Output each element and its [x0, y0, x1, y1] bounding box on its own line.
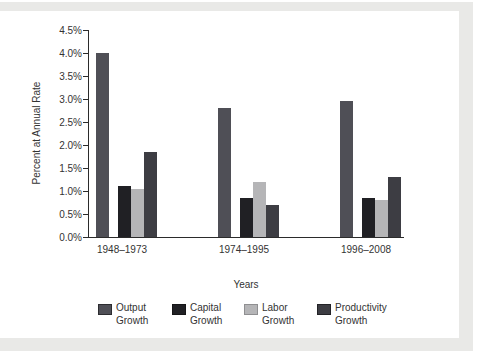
x-axis-line — [88, 237, 404, 238]
x-tick-label-1996-2008: 1996–2008 — [321, 244, 411, 255]
bar-labor-growth-1996-2008 — [375, 200, 388, 237]
bar-labor-growth-1974-1995 — [253, 182, 266, 237]
y-tick-label-0-5: 0.5% — [38, 209, 82, 220]
bar-capital-growth-1948-1973 — [118, 186, 131, 237]
y-tick-label-0-0: 0.0% — [38, 232, 82, 243]
y-axis-title: Percent at Annual Rate — [31, 63, 45, 203]
y-axis-line — [88, 30, 89, 238]
y-tick-mark-2-0 — [83, 145, 88, 146]
page-background-band-top — [0, 2, 462, 11]
x-axis-title: Years — [206, 279, 286, 290]
legend-label-capital-growth: Capital Growth — [190, 302, 222, 327]
x-tick-label-1974-1995: 1974–1995 — [199, 244, 289, 255]
x-tick-label-1948-1973: 1948–1973 — [77, 244, 167, 255]
legend-label-output-growth: Output Growth — [116, 302, 148, 327]
legend-swatch-output-growth — [98, 304, 112, 315]
y-tick-mark-0-5 — [83, 214, 88, 215]
figure-page: Percent at Annual Rate 0.0%0.5%1.0%1.5%2… — [0, 0, 477, 351]
legend-label-labor-growth: Labor Growth — [262, 302, 294, 327]
legend-swatch-productivity-growth — [317, 304, 331, 315]
page-background-band-bottom — [0, 338, 473, 351]
y-tick-label-1-0: 1.0% — [38, 186, 82, 197]
legend-label-productivity-growth: Productivity Growth — [335, 302, 387, 327]
bar-capital-growth-1974-1995 — [240, 198, 253, 237]
y-tick-label-4-0: 4.0% — [38, 48, 82, 59]
y-tick-label-2-0: 2.0% — [38, 140, 82, 151]
y-tick-mark-3-5 — [83, 76, 88, 77]
y-tick-mark-4-5 — [83, 30, 88, 31]
bar-labor-growth-1948-1973 — [131, 189, 144, 237]
y-tick-label-3-5: 3.5% — [38, 71, 82, 82]
bar-output-growth-1948-1973 — [96, 53, 109, 237]
bar-productivity-growth-1996-2008 — [388, 177, 401, 237]
y-tick-label-1-5: 1.5% — [38, 163, 82, 174]
y-tick-label-3-0: 3.0% — [38, 94, 82, 105]
y-tick-mark-4-0 — [83, 53, 88, 54]
bar-productivity-growth-1974-1995 — [266, 205, 279, 237]
y-tick-mark-1-5 — [83, 168, 88, 169]
page-background-band-right — [459, 2, 473, 344]
y-tick-label-4-5: 4.5% — [38, 25, 82, 36]
bar-output-growth-1974-1995 — [218, 108, 231, 237]
legend-swatch-capital-growth — [172, 304, 186, 315]
bar-productivity-growth-1948-1973 — [144, 152, 157, 237]
legend-swatch-labor-growth — [244, 304, 258, 315]
y-tick-mark-1-0 — [83, 191, 88, 192]
y-tick-mark-3-0 — [83, 99, 88, 100]
y-tick-mark-0-0 — [83, 237, 88, 238]
y-tick-mark-2-5 — [83, 122, 88, 123]
y-tick-label-2-5: 2.5% — [38, 117, 82, 128]
bar-capital-growth-1996-2008 — [362, 198, 375, 237]
bar-output-growth-1996-2008 — [340, 101, 353, 237]
